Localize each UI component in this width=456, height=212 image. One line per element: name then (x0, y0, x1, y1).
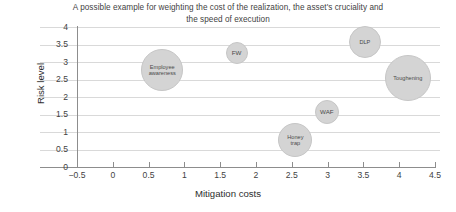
x-tick-mark (220, 162, 221, 168)
bubble-label: WAF (320, 109, 334, 115)
x-axis-label: Mitigation costs (0, 188, 456, 199)
x-tick-mark (435, 162, 436, 168)
x-tick-mark (77, 162, 78, 168)
x-tick-mark (399, 162, 400, 168)
bubble-point[interactable]: DLP (349, 26, 381, 58)
bubble-label: Toughening (393, 75, 422, 81)
x-tick-mark (149, 162, 150, 168)
bubble-point[interactable]: Toughening (385, 55, 431, 101)
x-tick-mark (256, 162, 257, 168)
bubble-point[interactable]: WAF (315, 100, 339, 124)
x-tick-label: 4 (381, 170, 417, 180)
chart-title-line-1: A possible example for weighting the cos… (73, 3, 383, 12)
x-axis-line (40, 167, 436, 168)
bubble-label: FW (232, 50, 242, 56)
chart-title: A possible example for weighting the cos… (38, 2, 418, 25)
bubble-point[interactable]: Honey trap (278, 123, 312, 157)
x-tick-mark (113, 162, 114, 168)
x-tick-label: 2 (238, 170, 274, 180)
x-tick-mark (363, 162, 364, 168)
plot-area: Employee awarenessFWDLPTougheningWAFHone… (77, 27, 440, 167)
x-tick-mark (184, 162, 185, 168)
bubble-label: Employee awareness (149, 64, 176, 77)
x-tick-mark (292, 162, 293, 168)
x-tick-label: 1.5 (202, 170, 238, 180)
bubble-chart: A possible example for weighting the cos… (0, 0, 456, 212)
y-axis-line (77, 26, 78, 168)
x-tick-label: −0.5 (59, 170, 95, 180)
bubble-label: Honey trap (287, 134, 303, 147)
bubble-point[interactable]: FW (226, 42, 248, 64)
y-axis-label: Risk level (35, 39, 46, 129)
x-tick-label: 3.5 (345, 170, 381, 180)
x-tick-label: 0.5 (131, 170, 167, 180)
y-tick-label: 4 (38, 22, 68, 32)
chart-title-line-2: the speed of execution (38, 14, 418, 26)
x-tick-label: 3 (310, 170, 346, 180)
bubble-point[interactable]: Employee awareness (141, 49, 183, 91)
y-tick-label: 0.5 (38, 144, 68, 154)
x-tick-label: 1 (166, 170, 202, 180)
x-tick-label: 2.5 (274, 170, 310, 180)
x-tick-label: 0 (95, 170, 131, 180)
x-tick-mark (328, 162, 329, 168)
x-tick-label: 4.5 (417, 170, 453, 180)
bubble-label: DLP (359, 39, 370, 45)
